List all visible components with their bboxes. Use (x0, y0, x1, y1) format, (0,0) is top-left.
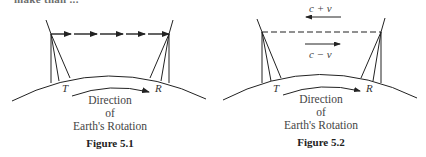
figure-5-2-drawing (213, 0, 426, 157)
transmitter-label: T (62, 82, 68, 94)
figure-caption: Figure 5.1 (60, 137, 160, 149)
figure-5-2: c + v c − v T R Direction of Earth's Rot… (213, 0, 426, 157)
rotation-direction-text: Direction of Earth's Rotation (266, 93, 376, 132)
figure-caption: Figure 5.2 (271, 136, 371, 148)
upper-velocity-label: c + v (309, 2, 332, 14)
receiver-tower (150, 20, 173, 83)
transmitter-tower (257, 19, 281, 83)
receiver-label: R (155, 82, 162, 94)
receiver-tower (361, 18, 385, 83)
rotation-direction-text: Direction of Earth's Rotation (55, 94, 165, 133)
transmitter-tower (46, 20, 70, 83)
lower-velocity-label: c − v (309, 48, 332, 60)
figure-5-1: T R Direction of Earth's Rotation Figure… (0, 0, 213, 157)
figure-5-1-drawing (0, 0, 213, 157)
